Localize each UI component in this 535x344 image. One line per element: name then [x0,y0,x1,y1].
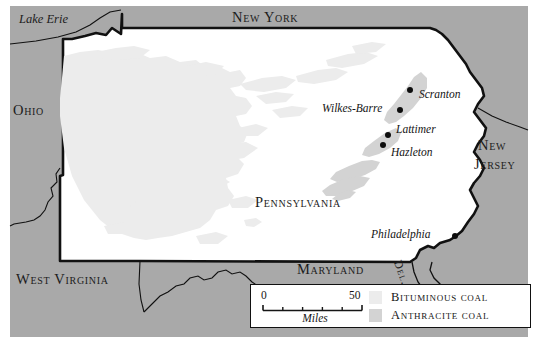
map-legend: 0 50 Miles Bituminous coal Anthracite co… [250,284,531,328]
scale-max-label: 50 [349,289,361,301]
city-dot-philadelphia [452,233,458,239]
city-dot-scranton [407,87,413,93]
scale-bar: 0 50 Miles [261,289,369,327]
legend-entry-bituminous-coal: Bituminous coal [369,290,488,305]
city-dot-hazleton [380,142,386,148]
coal-region-map: Lake Erie New York Ohio New Jersey Penns… [0,0,535,344]
legend-label-bituminous-coal: Bituminous coal [391,290,488,305]
bituminous-coal-swatch-icon [369,291,382,304]
legend-entry-anthracite-coal: Anthracite coal [369,308,489,323]
anthracite-coal-swatch-icon [369,309,382,322]
scale-unit-label: Miles [261,312,369,324]
legend-label-anthracite-coal: Anthracite coal [391,308,489,323]
city-dot-lattimer [385,132,391,138]
scale-min-label: 0 [261,289,267,301]
city-dot-wilkes-barre [397,107,403,113]
